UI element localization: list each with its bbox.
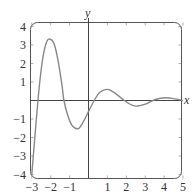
x-tick-label: −2 [44,180,57,194]
x-tick-label: 5 [180,180,186,194]
x-tick-label: −3 [25,180,38,194]
y-tick-label: −3 [13,149,26,163]
x-tick-labels: −3−2−112345 [25,180,186,194]
y-tick-label: 2 [20,57,26,71]
y-tick-label: −1 [13,112,26,126]
y-axis-label: y [84,6,91,20]
x-tick-label: 2 [123,180,129,194]
y-tick-label: 1 [20,75,26,89]
x-tick-label: 4 [161,180,167,194]
curve-line [32,39,183,174]
x-tick-label: −1 [63,180,76,194]
x-tick-label: 3 [142,180,148,194]
y-tick-label: 3 [20,38,26,52]
damped-oscillation-chart: −3−2−112345 4321−1−2−3−4 x y [0,0,195,194]
y-tick-labels: 4321−1−2−3−4 [13,20,26,182]
x-axis-label: x [183,93,190,107]
y-tick-label: 4 [20,20,26,34]
y-tick-label: −4 [13,168,26,182]
x-tick-label: 1 [104,180,110,194]
y-tick-label: −2 [13,131,26,145]
